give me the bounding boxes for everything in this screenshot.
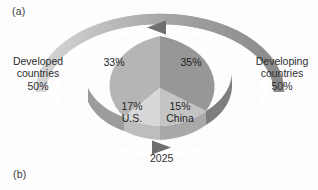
label-developed-countries: Developed countries 50% — [0, 55, 76, 92]
label-developing-countries: Developing countries 50% — [246, 55, 318, 92]
figure-container: (a) (b) — [0, 0, 318, 190]
label-year: 2025 — [150, 152, 173, 164]
